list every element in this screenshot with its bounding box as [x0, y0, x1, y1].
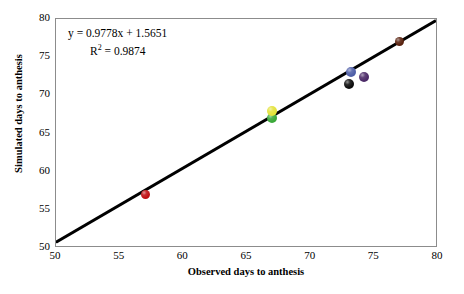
red-point — [141, 190, 150, 199]
x-tick-label: 65 — [226, 250, 266, 261]
x-tick-label: 70 — [290, 250, 330, 261]
regression-annotation: y = 0.9778x + 1.5651 R2 = 0.9874 — [68, 25, 167, 59]
x-axis-title: Observed days to anthesis — [55, 266, 437, 277]
r-squared-value: = 0.9874 — [102, 45, 146, 57]
x-tick-label: 50 — [35, 250, 75, 261]
x-tick-label: 60 — [162, 250, 202, 261]
black-point — [344, 79, 354, 89]
y-tick-label: 65 — [8, 127, 50, 138]
r-squared-prefix: R — [90, 45, 98, 57]
x-tick-label: 75 — [353, 250, 393, 261]
y-tick-label: 60 — [8, 165, 50, 176]
x-tick-label: 55 — [99, 250, 139, 261]
y-tick-label: 70 — [8, 88, 50, 99]
y-tick-label: 80 — [8, 12, 50, 23]
x-axis-tick-labels: 50556065707580 — [55, 250, 437, 266]
y-tick-label: 75 — [8, 50, 50, 61]
regression-equation: y = 0.9778x + 1.5651 — [68, 25, 167, 42]
x-tick-label: 80 — [417, 250, 457, 261]
r-squared-text: R2 = 0.9874 — [68, 42, 167, 60]
y-axis-tick-labels: 50556065707580 — [0, 18, 50, 247]
plot-frame: y = 0.9778x + 1.5651 R2 = 0.9874 — [55, 18, 437, 247]
y-tick-label: 55 — [8, 203, 50, 214]
scatter-chart-figure: Simulated days to anthesis 5055606570758… — [0, 0, 464, 294]
